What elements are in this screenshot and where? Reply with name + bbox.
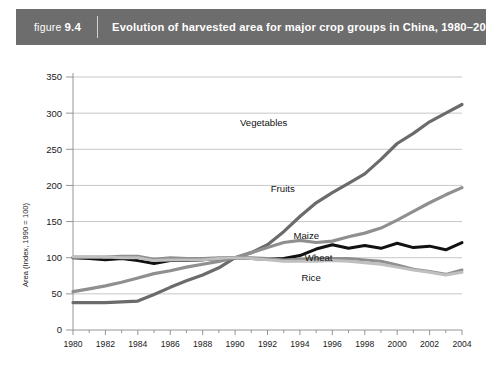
x-tick-label: 1990 <box>226 339 245 349</box>
x-tick-label: 1980 <box>63 339 82 349</box>
x-tick-label: 1988 <box>193 339 212 349</box>
x-tick-label: 1998 <box>355 339 374 349</box>
x-axis-group: 1980198219841986198819901992199419961998… <box>63 330 471 349</box>
figure-header-bar: figure9.4 Evolution of harvested area fo… <box>16 9 486 45</box>
x-tick-label: 1986 <box>161 339 180 349</box>
x-tick-label: 1996 <box>323 339 342 349</box>
y-tick-label: 350 <box>46 71 62 82</box>
x-tick-label: 2002 <box>420 339 439 349</box>
x-tick-label: 1994 <box>290 339 309 349</box>
x-tick-label: 2000 <box>388 339 407 349</box>
y-tick-label: 100 <box>46 252 62 263</box>
line-chart: 050100150200250300350 198019821984198619… <box>0 45 502 383</box>
x-tick-label: 1984 <box>128 339 147 349</box>
series-label-maize: Maize <box>293 230 319 241</box>
y-tick-label: 50 <box>51 288 62 299</box>
series-line-vegetables <box>73 104 462 302</box>
series-label-vegetables: Vegetables <box>240 117 288 128</box>
series-group <box>73 104 462 302</box>
y-tick-label: 250 <box>46 144 62 155</box>
y-axis-group: 050100150200250300350 <box>46 71 73 335</box>
figure-title: Evolution of harvested area for major cr… <box>112 21 499 33</box>
figure-number: 9.4 <box>64 21 81 33</box>
series-label-wheat: Wheat <box>305 252 333 263</box>
y-axis-title: Area (Index, 1990 = 100) <box>21 202 30 287</box>
series-label-rice: Rice <box>302 272 321 283</box>
x-tick-label: 1982 <box>96 339 115 349</box>
figure-container: figure9.4 Evolution of harvested area fo… <box>0 0 502 383</box>
header-divider <box>97 16 98 38</box>
y-tick-label: 300 <box>46 108 62 119</box>
series-line-fruits <box>73 188 462 292</box>
y-tick-label: 0 <box>57 324 62 335</box>
series-label-fruits: Fruits <box>271 183 295 194</box>
y-tick-label: 150 <box>46 216 62 227</box>
figure-number-block: figure9.4 <box>16 21 81 33</box>
y-tick-label: 200 <box>46 180 62 191</box>
x-tick-label: 2004 <box>452 339 471 349</box>
figure-word: figure <box>34 21 61 33</box>
chart-area: 050100150200250300350 198019821984198619… <box>0 45 502 383</box>
x-tick-label: 1992 <box>258 339 277 349</box>
